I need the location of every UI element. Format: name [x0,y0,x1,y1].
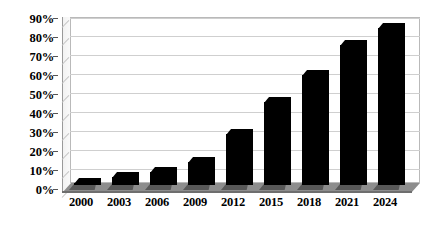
x-axis-label: 2015 [250,196,292,209]
bar-2015 [264,102,291,185]
bar-front-face [264,102,291,185]
bar-chart: 90% 80% 70% 60% 50% 40% 30% 20% 10% 0% [0,0,444,226]
y-axis-tick [53,75,58,76]
y-axis-label: 60% [0,70,54,83]
bar-front-face [340,45,367,185]
y-axis-tick [53,56,58,57]
y-axis-tick [53,132,58,133]
bar-2021 [340,45,367,185]
x-axis-label: 2024 [364,196,406,209]
y-axis-label: 0% [0,184,54,197]
x-axis-label: 2000 [60,196,102,209]
bar-2012 [226,134,253,185]
bar-2000 [74,183,101,185]
x-axis-label: 2006 [136,196,178,209]
bar-2006 [150,172,177,185]
bar-front-face [188,162,215,185]
y-axis-label: 50% [0,89,54,102]
y-axis-label: 30% [0,127,54,140]
y-axis-label: 80% [0,32,54,45]
bar-2009 [188,162,215,185]
x-axis-label: 2018 [288,196,330,209]
y-axis-tick [53,18,58,19]
y-axis-tick [53,113,58,114]
bar-series [62,17,420,193]
bar-front-face [302,75,329,185]
y-axis-tick [53,189,58,190]
y-axis-tick [53,151,58,152]
y-axis-label: 40% [0,108,54,121]
x-axis-label: 2021 [326,196,368,209]
y-axis: 90% 80% 70% 60% 50% 40% 30% 20% 10% 0% [0,0,58,226]
bar-front-face [150,172,177,185]
y-axis-tick [53,170,58,171]
x-axis-label: 2003 [98,196,140,209]
y-axis-tick [53,37,58,38]
bar-front-face [74,183,101,185]
y-axis-label: 90% [0,13,54,26]
bar-2003 [112,177,139,185]
bar-front-face [112,177,139,185]
y-axis-label: 70% [0,51,54,64]
y-axis-label: 10% [0,165,54,178]
y-axis-tick [53,94,58,95]
bar-2018 [302,75,329,185]
bar-2024 [378,28,405,185]
bar-front-face [378,28,405,185]
bar-front-face [226,134,253,185]
x-axis-label: 2012 [212,196,254,209]
x-axis-label: 2009 [174,196,216,209]
x-axis: 2000 2003 2006 2009 2012 2015 2018 2021 … [0,196,444,226]
y-axis-label: 20% [0,146,54,159]
